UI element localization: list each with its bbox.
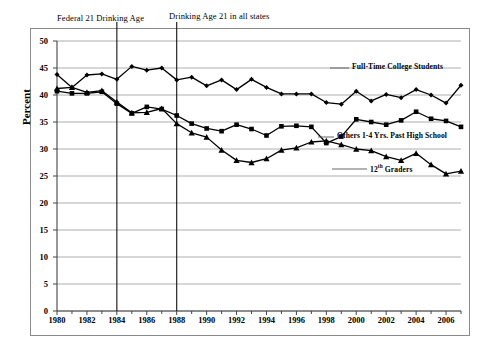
marker-12th-graders-24 <box>413 150 419 156</box>
marker-others-1-4-yrs-past-high-school-24 <box>414 109 419 114</box>
marker-others-1-4-yrs-past-high-school-15 <box>279 124 284 129</box>
marker-others-1-4-yrs-past-high-school-11 <box>219 129 224 134</box>
gridlines <box>57 41 461 311</box>
series-label-leaders <box>318 68 367 169</box>
marker-full-time-college-students-22 <box>384 92 389 97</box>
marker-others-1-4-yrs-past-high-school-23 <box>399 118 404 123</box>
marker-others-1-4-yrs-past-high-school-10 <box>204 126 209 131</box>
marker-full-time-college-students-24 <box>414 87 419 92</box>
marker-others-1-4-yrs-past-high-school-27 <box>459 125 464 130</box>
marker-full-time-college-students-15 <box>279 91 284 96</box>
marker-12th-graders-14 <box>263 156 269 162</box>
marker-others-1-4-yrs-past-high-school-16 <box>294 123 299 128</box>
chart-plot-area <box>0 0 488 350</box>
marker-full-time-college-students-23 <box>399 95 404 100</box>
marker-full-time-college-students-16 <box>294 91 299 96</box>
series-label-others-past-high-school: Others 1-4 Yrs. Past High School <box>337 131 447 140</box>
marker-others-1-4-yrs-past-high-school-17 <box>309 125 314 130</box>
series-label-full-time-college-students: Full-Time College Students <box>352 62 443 71</box>
marker-full-time-college-students-25 <box>429 93 434 98</box>
chart-root: Federal 21 Drinking Age Drinking Age 21 … <box>0 0 488 350</box>
annotation-lines <box>117 22 177 311</box>
marker-12th-graders-9 <box>189 130 195 136</box>
marker-others-1-4-yrs-past-high-school-25 <box>429 116 434 121</box>
marker-full-time-college-students-3 <box>99 71 104 76</box>
marker-others-1-4-yrs-past-high-school-20 <box>354 117 359 122</box>
marker-full-time-college-students-6 <box>144 68 149 73</box>
marker-others-1-4-yrs-past-high-school-22 <box>384 122 389 127</box>
series-label-12th-graders: 12th Graders <box>370 163 413 174</box>
chart-figure: Federal 21 Drinking Age Drinking Age 21 … <box>0 0 488 350</box>
marker-full-time-college-students-14 <box>264 85 269 90</box>
marker-others-1-4-yrs-past-high-school-12 <box>234 122 239 127</box>
marker-others-1-4-yrs-past-high-school-14 <box>264 133 269 138</box>
marker-others-1-4-yrs-past-high-school-1 <box>70 91 75 96</box>
marker-others-1-4-yrs-past-high-school-6 <box>144 105 149 110</box>
marker-others-1-4-yrs-past-high-school-9 <box>189 121 194 126</box>
marker-others-1-4-yrs-past-high-school-26 <box>444 119 449 124</box>
marker-others-1-4-yrs-past-high-school-8 <box>174 113 179 118</box>
marker-others-1-4-yrs-past-high-school-13 <box>249 127 254 132</box>
marker-others-1-4-yrs-past-high-school-21 <box>369 120 374 125</box>
